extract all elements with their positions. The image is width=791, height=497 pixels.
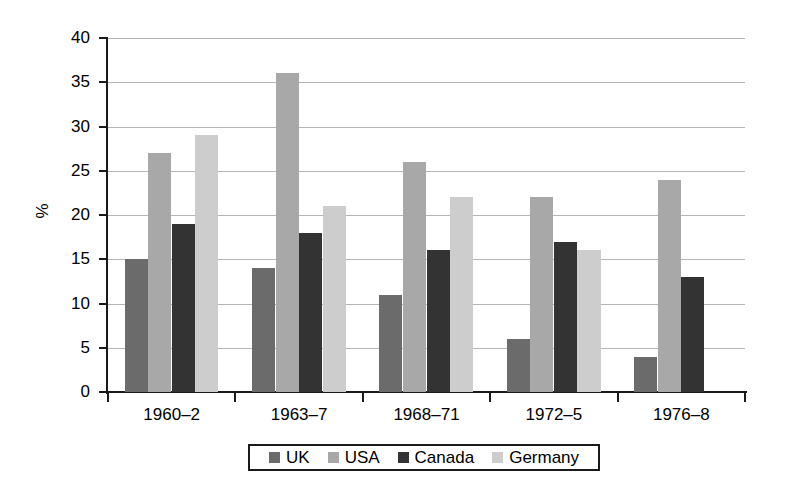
y-axis-tick: 5 [56, 339, 90, 356]
bar [195, 135, 218, 392]
bar [658, 180, 681, 392]
bar [252, 268, 275, 392]
y-axis-tick-label: 30 [56, 118, 90, 135]
y-axis-tick-label: 40 [56, 29, 90, 46]
y-axis-tick-label: 20 [56, 206, 90, 223]
y-axis-tick: 20 [56, 206, 90, 223]
y-axis-tick-mark [99, 81, 108, 83]
bar [148, 153, 171, 392]
y-axis-tick-mark [99, 258, 108, 260]
y-axis-tick-label: 0 [56, 383, 90, 400]
x-axis-category-label: 1960–2 [108, 404, 236, 426]
y-axis-tick-mark [99, 214, 108, 216]
bar [299, 233, 322, 392]
bar [554, 242, 577, 392]
x-axis-category-label: 1968–71 [363, 404, 491, 426]
bar [577, 250, 600, 392]
y-axis-tick-mark [99, 347, 108, 349]
y-axis-tick: 25 [56, 162, 90, 179]
bar [125, 259, 148, 392]
y-axis-tick-mark [99, 37, 108, 39]
bar [172, 224, 195, 392]
y-axis-tick-label: 15 [56, 250, 90, 267]
x-axis-category-label: 1963–7 [235, 404, 363, 426]
y-axis-tick-label: 25 [56, 162, 90, 179]
y-axis-tick: 35 [56, 73, 90, 90]
bar [507, 339, 530, 392]
bar [403, 162, 426, 392]
legend-swatch-icon [492, 452, 503, 463]
x-axis-tick-mark [234, 393, 236, 402]
legend-entry: USA [328, 449, 380, 466]
legend-label: Germany [509, 449, 579, 466]
legend-swatch-icon [269, 452, 280, 463]
x-axis-tick-mark [362, 393, 364, 402]
bar [530, 197, 553, 392]
x-axis-tick-mark [617, 393, 619, 402]
y-axis-tick: 0 [56, 383, 90, 400]
bar [450, 197, 473, 392]
gridline [108, 392, 745, 393]
legend-entry: UK [269, 449, 310, 466]
bar [634, 357, 657, 392]
y-axis-tick-mark [99, 303, 108, 305]
bar-chart: % 0510152025303540 1960–21963–71968–7119… [0, 0, 791, 497]
y-axis-tick-label: 5 [56, 339, 90, 356]
gridline [108, 82, 745, 83]
bar [323, 206, 346, 392]
y-axis-tick: 30 [56, 118, 90, 135]
bar [427, 250, 450, 392]
legend-swatch-icon [398, 452, 409, 463]
legend-label: USA [345, 449, 380, 466]
bar [379, 295, 402, 392]
y-axis-tick-mark [99, 170, 108, 172]
bar [681, 277, 704, 392]
gridline [108, 127, 745, 128]
x-axis-tick-mark [744, 393, 746, 402]
legend-label: UK [286, 449, 310, 466]
y-axis-tick: 10 [56, 295, 90, 312]
x-axis-category-label: 1972–5 [490, 404, 618, 426]
x-axis-category-label: 1976–8 [617, 404, 745, 426]
legend-label: Canada [415, 449, 475, 466]
y-axis-tick-label: 10 [56, 295, 90, 312]
x-axis-tick-mark [107, 393, 109, 402]
y-axis-tick: 40 [56, 29, 90, 46]
gridline [108, 38, 745, 39]
y-axis-tick-label: 35 [56, 73, 90, 90]
plot-area [108, 38, 745, 392]
bar [276, 73, 299, 392]
y-axis-tick-mark [99, 126, 108, 128]
y-axis-tick: 15 [56, 250, 90, 267]
legend-entry: Canada [398, 449, 475, 466]
chart-legend: UKUSACanadaGermany [248, 444, 600, 471]
y-axis-title: % [28, 196, 58, 226]
legend-swatch-icon [328, 452, 339, 463]
x-axis-tick-mark [489, 393, 491, 402]
legend-entry: Germany [492, 449, 579, 466]
